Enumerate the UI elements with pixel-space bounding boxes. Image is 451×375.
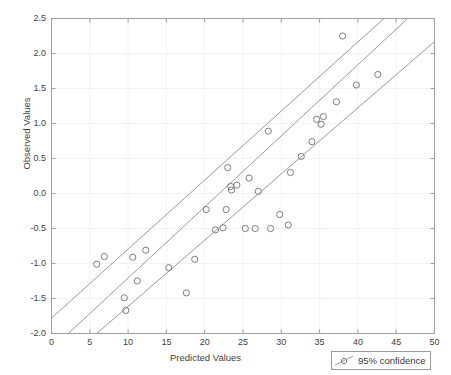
data-point [130, 254, 136, 260]
y-tick-label: -0.5 [20, 223, 46, 233]
data-point [333, 99, 339, 105]
x-tick-label: 5 [78, 337, 102, 347]
data-point [203, 207, 209, 213]
data-point [246, 175, 252, 181]
scatter-plot-svg[interactable] [0, 0, 451, 375]
data-point [225, 165, 231, 171]
data-point [309, 139, 315, 145]
data-point [101, 253, 107, 259]
data-point [353, 82, 359, 88]
x-tick-label: 20 [193, 337, 217, 347]
y-tick-label: 0.5 [20, 153, 46, 163]
y-tick-label: 1.0 [20, 118, 46, 128]
regression-fit [68, 19, 407, 334]
data-point [220, 225, 226, 231]
y-tick-label: 2.0 [20, 48, 46, 58]
data-point [313, 116, 319, 122]
grid-lines [52, 19, 435, 334]
y-tick-label: 1.5 [20, 83, 46, 93]
y-tick-label: 0.0 [20, 188, 46, 198]
data-point [277, 211, 283, 217]
data-point-markers[interactable] [94, 33, 381, 314]
x-tick-label: 10 [116, 337, 140, 347]
legend-marker-icon [335, 355, 355, 367]
y-tick-label: -1.5 [20, 293, 46, 303]
data-point [287, 169, 293, 175]
y-tick-label: -1.0 [20, 258, 46, 268]
data-point [192, 256, 198, 262]
data-point [134, 278, 140, 284]
data-point [94, 261, 100, 267]
data-point [375, 71, 381, 77]
y-tick-label: -2.0 [20, 328, 46, 338]
data-point [285, 222, 291, 228]
x-tick-label: 45 [384, 337, 408, 347]
data-point [265, 128, 271, 134]
x-tick-label: 50 [423, 337, 447, 347]
x-tick-label: 0 [40, 337, 64, 347]
x-axis-label: Predicted Values [170, 352, 241, 363]
data-point [143, 247, 149, 253]
legend-box[interactable]: 95% confidence [331, 351, 431, 370]
x-tick-label: 30 [269, 337, 293, 347]
data-point [121, 295, 127, 301]
data-point [234, 182, 240, 188]
x-tick-label: 40 [346, 337, 370, 347]
figure-canvas: Observed Values Predicted Values 0510152… [0, 0, 451, 375]
x-tick-label: 15 [154, 337, 178, 347]
confidence-lower [97, 42, 435, 334]
x-tick-label: 25 [231, 337, 255, 347]
confidence-upper [52, 19, 384, 319]
data-point [183, 290, 189, 296]
legend-entry-label: 95% confidence [358, 355, 426, 366]
y-tick-label: 2.5 [20, 13, 46, 23]
data-point [320, 113, 326, 119]
data-point [223, 207, 229, 213]
x-tick-label: 35 [308, 337, 332, 347]
data-point [212, 227, 218, 233]
data-point [339, 33, 345, 39]
data-point [318, 121, 324, 127]
